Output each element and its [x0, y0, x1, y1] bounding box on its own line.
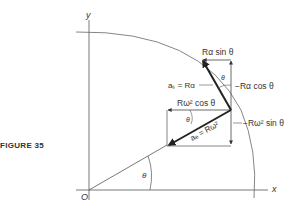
centripetal-vector-label: aₑ = Rω²	[189, 120, 221, 143]
centripetal-vertical-label: −Rω² sin θ	[243, 118, 284, 128]
centripetal-horizontal-label: Rω² cos θ	[177, 98, 216, 108]
tangential-horizontal-label: Rα sin θ	[202, 47, 234, 57]
origin-label: O	[81, 192, 88, 202]
angle-arc-tangential	[218, 85, 231, 88]
figure-35-diagram: y x O θ θ Rα sin θ −Rα cos θ aₛ = Rα θ R…	[0, 0, 305, 213]
angle-label-origin: θ	[142, 171, 147, 180]
angle-label-centripetal: θ	[186, 116, 190, 123]
tangential-vector-label: aₛ = Rα	[168, 81, 195, 90]
radius-line	[89, 145, 167, 190]
tangential-vertical-label: −Rα cos θ	[235, 81, 274, 91]
angle-label-tangential: θ	[221, 74, 225, 81]
x-axis-label: x	[271, 184, 277, 194]
angle-arc-centripetal	[190, 110, 192, 124]
y-axis-label: y	[85, 10, 91, 20]
angle-arc-origin	[148, 156, 152, 190]
figure-caption: FIGURE 35	[0, 141, 44, 150]
